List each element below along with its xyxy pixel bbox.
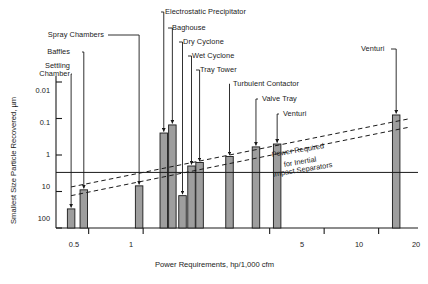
leader-line-dry-cyclone [179, 42, 183, 194]
bar-spray-chambers-2[interactable] [135, 186, 143, 228]
chart-figure: Settling Chamber Baffles Spray Chambers … [0, 0, 428, 284]
leader-line-tray-tower [196, 70, 200, 161]
leader-line-baghouse [168, 28, 172, 123]
leader-line-spray-chambers [108, 35, 139, 184]
leader-line-baffles [82, 52, 84, 188]
callout-label-valve-tray: Valve Tray [262, 95, 297, 104]
leader-line-turbulent-contactor [229, 84, 230, 155]
trend-line-dashed-1 [71, 119, 410, 187]
leader-line-settling-chamber [71, 74, 72, 207]
callout-label-dry-cyclone: Dry Cyclone [183, 38, 224, 47]
y-axis-title-line1: Smallest Size Particle Recovered, µm [9, 97, 18, 224]
bar-venturi-11[interactable] [392, 115, 400, 228]
leader-line-electrostatic-precipitator [161, 12, 164, 132]
bar-baghouse-4[interactable] [169, 125, 177, 228]
bar-baffles-1[interactable] [80, 190, 88, 228]
bar-wet-cyclone-6[interactable] [188, 166, 196, 228]
bar-group [67, 115, 400, 228]
callout-label-tray-tower: Tray Tower [200, 66, 237, 75]
leader-line-venturi-mid [277, 114, 279, 143]
callout-label-wet-cyclone: Wet Cyclone [192, 52, 234, 61]
leader-line-valve-tray [256, 99, 258, 145]
bar-dry-cyclone-5[interactable] [179, 196, 187, 228]
callout-label-electrostatic-precipitator: Electrostatic Precipitator [165, 8, 246, 17]
callout-label-turbulent-contactor: Turbulent Contactor [233, 80, 299, 89]
callout-label-baffles: Baffles [8, 48, 70, 57]
callout-label-spray-chambers: Spray Chambers [14, 31, 104, 40]
x-tick-10: 10 [345, 240, 373, 249]
bar-settling-chamber-0[interactable] [67, 209, 75, 228]
x-axis-title: Power Requirements, hp/1,000 cfm [155, 260, 274, 269]
x-tick-20: 20 [402, 240, 428, 249]
trend-line-dashed-2 [71, 127, 410, 196]
y-tick-0.01: 0.01 [12, 86, 50, 95]
x-tick-0.5: 0.5 [60, 240, 88, 249]
x-tick-1: 1 [117, 240, 145, 249]
leader-line-wet-cyclone [188, 56, 192, 164]
callout-label-settling-chamber-line2: Chamber [8, 70, 70, 79]
bar-electrostatic-precipitator-3[interactable] [160, 133, 168, 228]
x-tick-5: 5 [288, 240, 316, 249]
callout-label-venturi-mid: Venturi [283, 110, 306, 119]
callout-label-venturi-right: Venturi [361, 45, 384, 54]
bar-turbulent-contactor-8[interactable] [226, 157, 234, 228]
callout-label-baghouse: Baghouse [172, 24, 206, 33]
leader-line-venturi-right [391, 49, 396, 113]
